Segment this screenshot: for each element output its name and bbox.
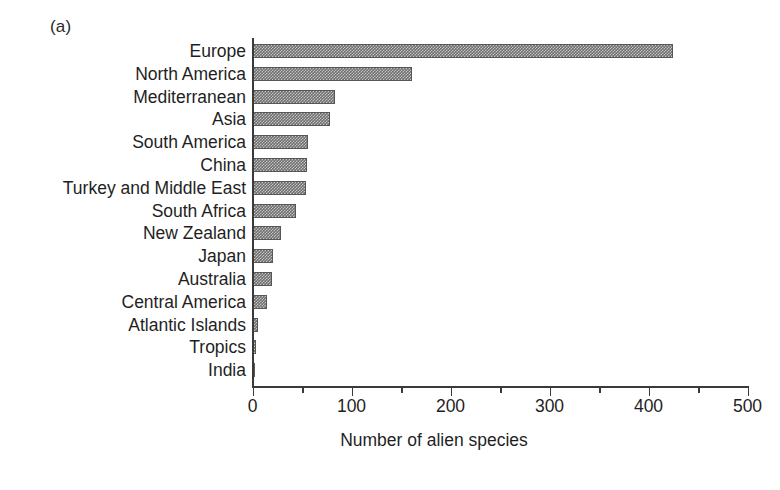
- x-tick-label: 500: [733, 396, 762, 417]
- figure-panel: (a) EuropeNorth AmericaMediterraneanAsia…: [0, 0, 780, 490]
- category-axis-labels: EuropeNorth AmericaMediterraneanAsiaSout…: [0, 36, 246, 381]
- category-label: China: [0, 157, 246, 175]
- category-label: Asia: [0, 111, 246, 129]
- bar: [253, 226, 281, 240]
- x-tick-major: [451, 388, 453, 396]
- category-label: India: [0, 362, 246, 380]
- bar: [253, 249, 273, 263]
- x-tick-minor: [500, 388, 502, 393]
- category-label: Turkey and Middle East: [0, 180, 246, 198]
- category-label: South Africa: [0, 203, 246, 221]
- bar: [253, 112, 330, 126]
- x-tick-minor: [599, 388, 601, 393]
- x-tick-label: 400: [634, 396, 663, 417]
- x-tick-label: 200: [436, 396, 465, 417]
- category-label: Atlantic Islands: [0, 317, 246, 335]
- x-tick-major: [253, 388, 255, 396]
- bar: [253, 135, 308, 149]
- bar: [253, 158, 307, 172]
- bar: [253, 181, 306, 195]
- x-tick-label: 300: [535, 396, 564, 417]
- x-tick-major: [649, 388, 651, 396]
- category-axis-line: [252, 38, 254, 386]
- x-tick-minor: [698, 388, 700, 393]
- x-tick-major: [550, 388, 552, 396]
- x-tick-label: 100: [337, 396, 366, 417]
- x-tick-minor: [401, 388, 403, 393]
- category-label: New Zealand: [0, 225, 246, 243]
- category-label: Japan: [0, 248, 246, 266]
- category-label: Europe: [0, 43, 246, 61]
- bar: [253, 272, 272, 286]
- x-tick-minor: [302, 388, 304, 393]
- category-label: North America: [0, 66, 246, 84]
- x-tick-major: [352, 388, 354, 396]
- x-tick-label: 0: [248, 396, 258, 417]
- x-axis-title: Number of alien species: [0, 430, 780, 451]
- bar: [253, 67, 412, 81]
- x-tick-major: [748, 388, 750, 396]
- bar: [253, 295, 267, 309]
- bar: [253, 204, 296, 218]
- category-label: Mediterranean: [0, 89, 246, 107]
- category-label: Central America: [0, 294, 246, 312]
- bars-container: [253, 36, 753, 381]
- category-label: South America: [0, 134, 246, 152]
- category-label: Australia: [0, 271, 246, 289]
- bar-chart: EuropeNorth AmericaMediterraneanAsiaSout…: [0, 0, 780, 490]
- category-label: Tropics: [0, 339, 246, 357]
- bar: [253, 90, 335, 104]
- bar: [253, 44, 673, 58]
